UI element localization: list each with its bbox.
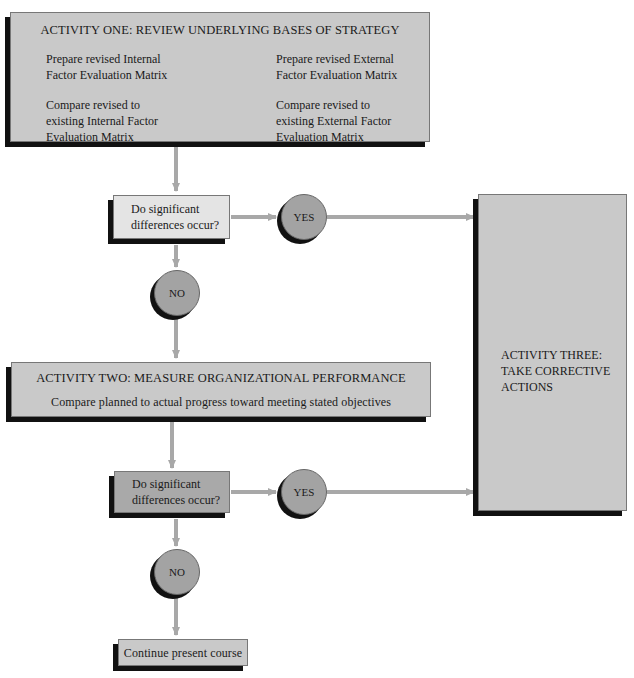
item-line: Prepare revised Internal [46,51,167,67]
item-line: Factor Evaluation Matrix [276,67,397,83]
title-line: TAKE CORRECTIVE [501,363,610,379]
decision-two-text: Do significant differences occur? [132,476,220,508]
activity-one-item: Prepare revised External Factor Evaluati… [276,51,397,83]
decision-line: differences occur? [132,492,220,508]
continue-text: Continue present course [119,646,247,661]
title-line: ACTIONS [501,379,610,395]
activity-three-title: ACTIVITY THREE: TAKE CORRECTIVE ACTIONS [501,347,610,395]
activity-two-box: ACTIVITY TWO: MEASURE ORGANIZATIONAL PER… [11,362,431,417]
decision-two-box: Do significant differences occur? [114,471,230,513]
activity-three-box: ACTIVITY THREE: TAKE CORRECTIVE ACTIONS [478,194,627,511]
activity-two-title: ACTIVITY TWO: MEASURE ORGANIZATIONAL PER… [12,371,430,386]
decision-line: Do significant [132,476,220,492]
yes-label: YES [294,486,315,498]
activity-one-title: ACTIVITY ONE: REVIEW UNDERLYING BASES OF… [11,23,429,38]
yes-label: YES [294,211,315,223]
yes-two-circle: YES [281,469,327,515]
no-label: NO [169,287,185,299]
decision-one-box: Do significant differences occur? [113,195,230,239]
no-label: NO [169,566,185,578]
item-line: Compare revised to [276,97,391,113]
no-one-circle: NO [154,270,200,316]
activity-one-item: Compare revised to existing Internal Fac… [46,97,158,145]
no-two-circle: NO [154,549,200,595]
activity-two-text: Compare planned to actual progress towar… [12,395,430,410]
yes-one-circle: YES [281,194,327,240]
activity-one-item: Compare revised to existing External Fac… [276,97,391,145]
decision-line: differences occur? [131,217,219,233]
item-line: Evaluation Matrix [46,129,158,145]
decision-one-text: Do significant differences occur? [131,201,219,233]
title-line: ACTIVITY THREE: [501,347,610,363]
item-line: Compare revised to [46,97,158,113]
item-line: existing External Factor [276,113,391,129]
item-line: existing Internal Factor [46,113,158,129]
item-line: Prepare revised External [276,51,397,67]
activity-one-item: Prepare revised Internal Factor Evaluati… [46,51,167,83]
continue-box: Continue present course [118,639,248,666]
activity-one-box: ACTIVITY ONE: REVIEW UNDERLYING BASES OF… [10,12,430,142]
decision-line: Do significant [131,201,219,217]
item-line: Factor Evaluation Matrix [46,67,167,83]
item-line: Evaluation Matrix [276,129,391,145]
